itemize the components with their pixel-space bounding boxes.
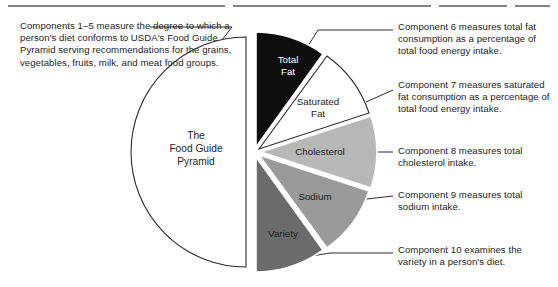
figure-canvas: Total Fat Saturated Fat Cholesterol Sodi…: [0, 0, 558, 287]
pie-label-total-fat-line1: Total: [278, 54, 299, 65]
leader-line-component-7: [366, 90, 393, 102]
annotation-component-9: Component 9 measures total sodium intake…: [398, 189, 550, 213]
pie-label-total-fat-line2: Fat: [281, 66, 295, 77]
annotation-component-10: Component 10 examines the variety in a p…: [398, 244, 550, 268]
annotation-component-7: Component 7 measures saturated fat consu…: [398, 79, 550, 116]
pie-label-cholesterol: Cholesterol: [295, 146, 345, 157]
annotation-component-6: Component 6 measures total fat consumpti…: [398, 21, 550, 58]
pie-center-label-line1: The: [187, 130, 205, 141]
pie-label-saturated-fat-line2: Fat: [311, 108, 325, 119]
annotation-components-1-5: Components 1–5 measure the degree to whi…: [20, 20, 232, 69]
pie-label-saturated-fat-line1: Saturated: [297, 96, 339, 107]
pie-center-label-line3: Pyramid: [177, 156, 215, 167]
pie-label-sodium: Sodium: [298, 191, 331, 202]
pie-center-label-line2: Food Guide: [169, 143, 223, 154]
annotation-component-8: Component 8 measures total cholesterol i…: [398, 145, 550, 169]
pie-label-variety: Variety: [268, 228, 298, 239]
